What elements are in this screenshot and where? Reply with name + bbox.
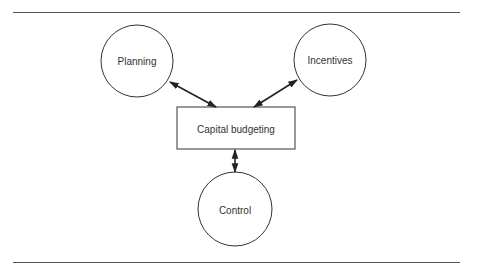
diagram-canvas	[0, 0, 479, 270]
control-label: Control	[219, 205, 251, 216]
incentives-label: Incentives	[307, 55, 352, 66]
incentives-arrow	[254, 80, 297, 107]
capital-budgeting-label: Capital budgeting	[197, 124, 275, 135]
planning-label: Planning	[118, 56, 157, 67]
planning-arrow	[170, 82, 216, 107]
